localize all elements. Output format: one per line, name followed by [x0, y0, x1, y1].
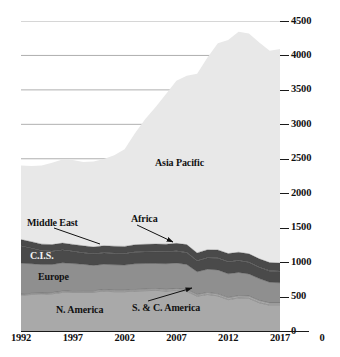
y-tick-mark	[280, 124, 289, 125]
x-tick-label: 1997	[63, 333, 83, 344]
y-tick-mark	[280, 193, 289, 194]
y-tick-label: 1500	[291, 222, 311, 233]
y-tick-label: 2000	[291, 188, 311, 199]
x-tick-label: 2007	[166, 333, 186, 344]
plot-area	[21, 21, 280, 331]
y-tick-mark	[280, 21, 289, 22]
y-tick-mark	[280, 228, 289, 229]
y-tick-mark	[280, 159, 289, 160]
x-tick-label: 2012	[218, 333, 238, 344]
y-tick-label: 3500	[291, 84, 311, 95]
series-label-africa: Africa	[131, 214, 158, 224]
y-axis-zero-label: 0	[319, 333, 324, 344]
x-axis: 1992199720022007201220170	[0, 333, 340, 353]
x-tick-label: 2002	[114, 333, 134, 344]
area-bands	[21, 32, 280, 331]
series-label-sc-america: S. & C. America	[132, 303, 200, 313]
series-label-cis: C.I.S.	[30, 251, 54, 261]
y-tick-label: 4000	[291, 50, 311, 61]
y-tick-label: 1000	[291, 257, 311, 268]
y-tick-label: 500	[291, 291, 306, 302]
x-tick-label: 1992	[11, 333, 31, 344]
stacked-area-series	[21, 21, 280, 331]
y-tick-label: 4500	[291, 16, 311, 27]
y-tick-mark	[280, 262, 289, 263]
y-tick-label: 3000	[291, 119, 311, 130]
y-axis: 050010001500200025003000350040004500 Coa…	[280, 0, 340, 357]
y-tick-mark	[280, 90, 289, 91]
area-band-asia-pacific	[21, 32, 280, 263]
series-label-europe: Europe	[38, 272, 69, 282]
series-label-n-america: N. America	[56, 305, 103, 315]
y-tick-mark	[280, 297, 289, 298]
x-tick-label: 2017	[270, 333, 290, 344]
series-label-middle-east: Middle East	[27, 218, 78, 228]
y-tick-mark	[280, 55, 289, 56]
y-tick-label: 2500	[291, 153, 311, 164]
coal-consumption-area-chart: Asia Pacific Middle East Africa C.I.S. E…	[0, 0, 340, 357]
series-label-asia-pacific: Asia Pacific	[155, 158, 204, 168]
